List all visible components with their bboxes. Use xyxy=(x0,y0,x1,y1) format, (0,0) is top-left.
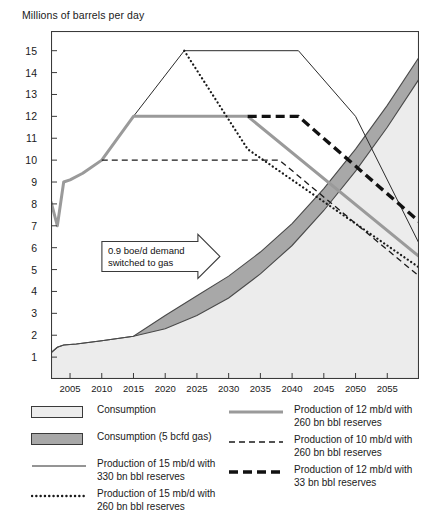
y-tick-label: 14 xyxy=(25,67,37,79)
line-dotted xyxy=(31,490,87,502)
legend-item-label: Production of 12 mb/d with 33 bn bbl res… xyxy=(294,464,418,489)
x-tick-label: 2055 xyxy=(377,383,398,394)
line-solid-thin xyxy=(31,460,87,472)
line-solid-gray xyxy=(228,406,284,418)
legend-item-label: Production of 15 mb/d with 260 bn bbl re… xyxy=(97,488,231,513)
legend-item-label: Production of 12 mb/d with 260 bn bbl re… xyxy=(294,404,418,429)
x-tick-label: 2025 xyxy=(186,383,207,394)
legend-item[interactable]: Production of 15 mb/d with 330 bn bbl re… xyxy=(31,458,231,483)
line-dashed-thick xyxy=(228,466,284,478)
swatch-dark xyxy=(31,433,83,445)
y-tick-label: 4 xyxy=(31,285,37,297)
x-tick-label: 2040 xyxy=(282,383,303,394)
x-axis-labels: 2005201020152020202520302035204020452050… xyxy=(51,383,419,399)
y-tick-label: 2 xyxy=(31,329,37,341)
x-tick-label: 2030 xyxy=(218,383,239,394)
x-tick-label: 2015 xyxy=(123,383,144,394)
legend-item[interactable]: Production of 12 mb/d with 260 bn bbl re… xyxy=(228,404,418,429)
x-tick-label: 2010 xyxy=(91,383,112,394)
y-tick-label: 8 xyxy=(31,198,37,210)
legend-item-label: Production of 15 mb/d with 330 bn bbl re… xyxy=(97,458,231,483)
x-tick-label: 2020 xyxy=(155,383,176,394)
x-tick-label: 2005 xyxy=(59,383,80,394)
annotation-text-line2: switched to gas xyxy=(108,257,174,268)
y-tick-label: 5 xyxy=(31,264,37,276)
legend-item[interactable]: Production of 10 mb/d with 260 bn bbl re… xyxy=(228,434,418,459)
legend-column-right: Production of 12 mb/d with 260 bn bbl re… xyxy=(228,404,418,494)
y-tick-label: 3 xyxy=(31,307,37,319)
x-tick-label: 2035 xyxy=(250,383,271,394)
y-tick-label: 6 xyxy=(31,242,37,254)
y-tick-label: 10 xyxy=(25,154,37,166)
chart-root: Millions of barrels per day 123456789101… xyxy=(0,0,425,530)
annotation-text-line1: 0.9 boe/d demand xyxy=(108,245,185,256)
y-tick-label: 13 xyxy=(25,88,37,100)
legend-item[interactable]: Production of 12 mb/d with 33 bn bbl res… xyxy=(228,464,418,489)
legend-item[interactable]: Consumption (5 bcfd gas) xyxy=(31,431,231,453)
legend-item-label: Consumption (5 bcfd gas) xyxy=(97,431,231,444)
y-tick-label: 12 xyxy=(25,110,37,122)
y-tick-label: 7 xyxy=(31,220,37,232)
legend-item[interactable]: Consumption xyxy=(31,404,231,426)
plot-area: 0.9 boe/d demandswitched to gas xyxy=(51,31,419,379)
y-axis-labels: 123456789101112131415 xyxy=(0,31,48,379)
line-dashed-thin xyxy=(228,436,284,448)
swatch-light xyxy=(31,406,83,418)
legend-item-label: Production of 10 mb/d with 260 bn bbl re… xyxy=(294,434,418,459)
legend-item[interactable]: Production of 15 mb/d with 260 bn bbl re… xyxy=(31,488,231,513)
y-tick-label: 9 xyxy=(31,176,37,188)
chart-svg: 0.9 boe/d demandswitched to gas xyxy=(51,31,419,379)
y-tick-label: 15 xyxy=(25,45,37,57)
y-tick-label: 1 xyxy=(31,351,37,363)
legend-item-label: Consumption xyxy=(97,404,231,417)
x-tick-label: 2045 xyxy=(313,383,334,394)
chart-axis-title: Millions of barrels per day xyxy=(22,9,144,21)
y-tick-label: 11 xyxy=(26,132,37,144)
chart-legend: ConsumptionConsumption (5 bcfd gas)Produ… xyxy=(0,404,425,530)
legend-column-left: ConsumptionConsumption (5 bcfd gas)Produ… xyxy=(31,404,231,518)
x-tick-label: 2050 xyxy=(345,383,366,394)
